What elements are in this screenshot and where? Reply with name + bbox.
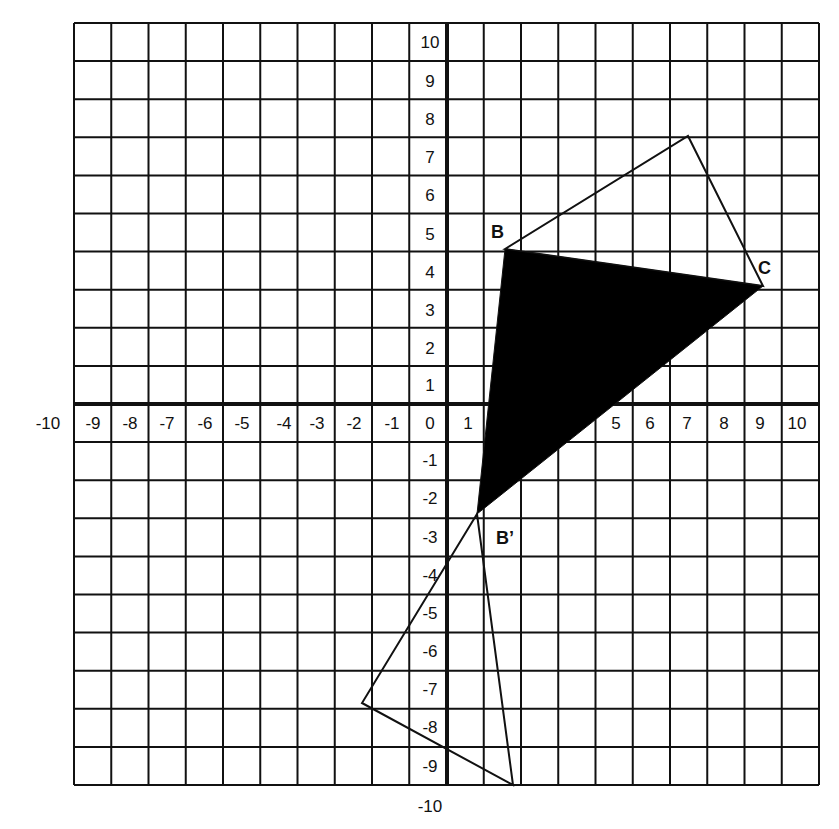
x-tick-label: 7 [682, 414, 691, 433]
x-tick-label: -10 [36, 414, 61, 433]
point-label: B [491, 222, 504, 242]
y-tick-label: 10 [421, 33, 440, 52]
x-tick-label: -1 [384, 414, 399, 433]
x-tick-label: -9 [85, 414, 100, 433]
x-tick-label: 9 [755, 414, 764, 433]
y-tick-label: 4 [425, 263, 434, 282]
y-tick-label: -7 [422, 680, 437, 699]
x-tick-label: -7 [159, 414, 174, 433]
y-tick-label: 7 [425, 148, 434, 167]
y-tick-label: -9 [422, 757, 437, 776]
x-tick-label: 8 [719, 414, 728, 433]
x-tick-label: -5 [234, 414, 249, 433]
y-tick-label: 6 [425, 186, 434, 205]
x-tick-label: -2 [346, 414, 361, 433]
x-tick-label: -3 [309, 414, 324, 433]
x-tick-label: 0 [425, 414, 434, 433]
y-tick-label: -8 [422, 718, 437, 737]
x-tick-label: 10 [788, 414, 807, 433]
x-tick-label: 6 [645, 414, 654, 433]
y-tick-label: 3 [425, 301, 434, 320]
y-tick-label: 5 [425, 225, 434, 244]
y-tick-label: 9 [425, 72, 434, 91]
y-tick-label: -4 [422, 566, 437, 585]
point-label: C [758, 258, 771, 278]
y-tick-label: -10 [418, 797, 443, 816]
point-label: B’ [496, 528, 514, 548]
y-tick-label: -2 [422, 489, 437, 508]
y-tick-label: -3 [422, 528, 437, 547]
x-tick-label: -8 [122, 414, 137, 433]
x-tick-label: 5 [611, 414, 620, 433]
y-tick-label: 2 [425, 339, 434, 358]
x-tick-label: -6 [197, 414, 212, 433]
y-tick-label: -1 [422, 451, 437, 470]
y-tick-label: 8 [425, 110, 434, 129]
shaded-triangle [477, 249, 763, 514]
y-tick-label: -6 [422, 642, 437, 661]
y-tick-label: 1 [425, 376, 434, 395]
x-tick-label: -4 [276, 414, 291, 433]
x-axis-tick-labels: -10-9-8-7-6-5-4-3-2-1015678910 [36, 414, 807, 433]
x-tick-label: 1 [463, 414, 472, 433]
coordinate-plane: -10-9-8-7-6-5-4-3-2-1015678910 109876543… [0, 0, 839, 829]
y-tick-label: -5 [422, 604, 437, 623]
